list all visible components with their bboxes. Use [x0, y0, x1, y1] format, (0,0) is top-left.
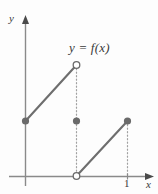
x-axis-label: x — [146, 179, 151, 190]
function-label: y = f(x) — [69, 41, 110, 54]
function-graph-figure: y = f(x) y x 1 — [0, 0, 158, 194]
y-axis-arrowhead — [22, 15, 29, 24]
open-point-top-branch1 — [73, 62, 80, 69]
function-branch-2 — [77, 121, 128, 176]
function-branch-1 — [26, 65, 77, 121]
open-point-bottom-branch2 — [73, 173, 80, 180]
closed-point-right-branch2 — [124, 117, 131, 124]
graph-canvas — [0, 0, 158, 194]
x-tick-label-one: 1 — [124, 178, 130, 189]
closed-point-left-branch1 — [22, 117, 29, 124]
closed-point-midpoint — [73, 117, 80, 124]
y-axis-label: y — [9, 13, 14, 24]
